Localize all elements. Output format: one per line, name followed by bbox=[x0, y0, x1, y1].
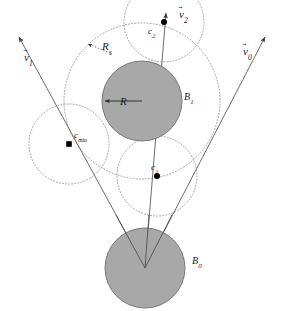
label-radius-r-base: R bbox=[120, 95, 127, 107]
label-ball-b1: B1 bbox=[184, 92, 194, 105]
label-radius-rs: Rs bbox=[102, 41, 112, 55]
label-vector-v2-sub: 2 bbox=[184, 16, 188, 25]
marker-point-cmin bbox=[66, 141, 72, 147]
label-point-c2: c2 bbox=[148, 27, 155, 38]
label-ball-b0: B0 bbox=[192, 256, 202, 269]
label-radius-rs-base: R bbox=[102, 40, 109, 52]
figure-root: v1 v2 v0 B1 B0 cmin c1 c2 Rs R bbox=[0, 0, 282, 311]
diagram-canvas bbox=[0, 0, 282, 311]
label-point-c1-sub: 1 bbox=[155, 169, 158, 175]
label-vector-v0: v0 bbox=[243, 46, 252, 60]
label-ball-b1-sub: 1 bbox=[190, 98, 193, 105]
label-vector-v1: v1 bbox=[24, 52, 33, 66]
label-ball-b0-sub: 0 bbox=[198, 262, 201, 269]
circle-at-c2 bbox=[124, 0, 204, 62]
label-radius-r: R bbox=[120, 96, 127, 107]
label-point-c1: c1 bbox=[151, 163, 158, 174]
label-radius-rs-sub: s bbox=[109, 48, 112, 57]
label-point-cmin: cmin bbox=[74, 131, 87, 142]
label-point-c2-sub: 2 bbox=[152, 33, 155, 39]
label-vector-v1-sub: 1 bbox=[29, 59, 33, 68]
label-point-cmin-sub: min bbox=[78, 137, 87, 143]
label-vector-v0-sub: 0 bbox=[248, 53, 252, 62]
marker-point-c2 bbox=[161, 19, 167, 25]
label-vector-v2: v2 bbox=[179, 9, 188, 23]
